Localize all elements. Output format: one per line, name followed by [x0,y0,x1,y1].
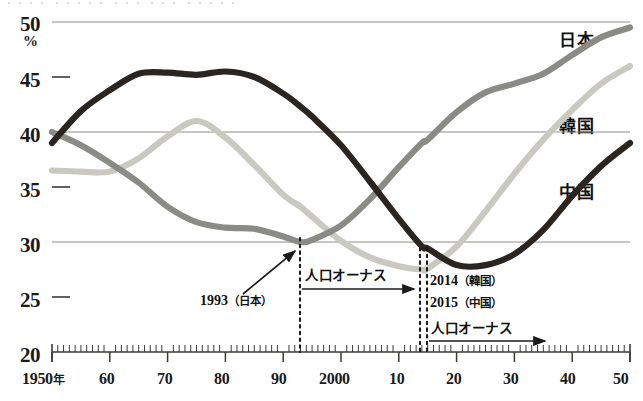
y-tick-marks [52,77,70,297]
chart-page: ・・・・ ・・・・・ ・・・ ・・・ ・・・・・ 50 % 45 40 35 3… [0,0,643,401]
chart-svg [0,0,643,401]
gridlines [52,22,630,242]
series-line-japan [52,28,630,243]
x-axis [52,344,630,362]
series-line-korea [52,66,630,271]
callout-arrow-1993 [243,251,295,294]
